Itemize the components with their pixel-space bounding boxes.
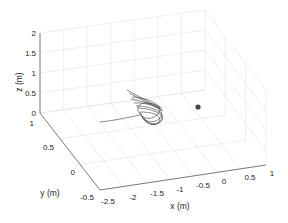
svg-text:0: 0 bbox=[222, 177, 227, 186]
svg-text:-2.5: -2.5 bbox=[101, 197, 115, 206]
y-axis-ticks: 1 0.5 0 -0.5 bbox=[30, 119, 95, 202]
svg-text:0.5: 0.5 bbox=[244, 173, 256, 182]
svg-text:0: 0 bbox=[71, 168, 76, 177]
3d-trajectory-plot: 2 1.5 1 0.5 0 z (m) 1 0.5 0 -0.5 y (m) -… bbox=[0, 0, 288, 223]
svg-text:-1: -1 bbox=[176, 185, 184, 194]
svg-text:0.5: 0.5 bbox=[25, 89, 37, 98]
svg-text:0.5: 0.5 bbox=[43, 143, 55, 152]
grid-lines bbox=[40, 10, 266, 187]
target-point bbox=[195, 104, 200, 109]
z-axis-ticks: 2 1.5 1 0.5 0 bbox=[25, 29, 37, 118]
svg-text:-0.5: -0.5 bbox=[196, 181, 210, 190]
svg-text:1: 1 bbox=[270, 169, 275, 178]
trajectory-line bbox=[100, 90, 163, 124]
x-axis-label: x (m) bbox=[170, 201, 190, 211]
z-axis-label: z (m) bbox=[14, 72, 24, 92]
svg-text:1.5: 1.5 bbox=[25, 49, 37, 58]
svg-text:-1.5: -1.5 bbox=[150, 189, 164, 198]
svg-text:-0.5: -0.5 bbox=[80, 193, 94, 202]
svg-text:1: 1 bbox=[30, 119, 35, 128]
svg-text:0: 0 bbox=[32, 109, 37, 118]
axes bbox=[40, 33, 266, 190]
y-axis-label: y (m) bbox=[40, 188, 60, 198]
svg-text:2: 2 bbox=[32, 29, 37, 38]
svg-text:1: 1 bbox=[32, 69, 37, 78]
svg-text:-2: -2 bbox=[129, 193, 137, 202]
